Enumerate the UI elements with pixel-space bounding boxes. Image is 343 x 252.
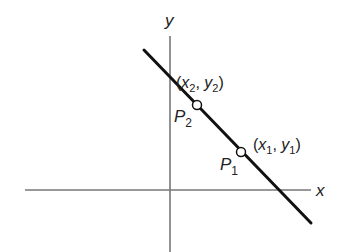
y-axis-label: y bbox=[164, 11, 175, 30]
point-p2-marker bbox=[193, 101, 202, 110]
point-p2-name: P2 bbox=[174, 107, 192, 130]
point-p1-name: P1 bbox=[220, 155, 238, 178]
x-axis-label: x bbox=[315, 181, 325, 200]
line-through-two-points-diagram: y x (x2, y2) P2 (x1, y1) P1 bbox=[0, 0, 343, 252]
point-p1-coords: (x1, y1) bbox=[253, 136, 301, 156]
point-p1-marker bbox=[237, 148, 246, 157]
